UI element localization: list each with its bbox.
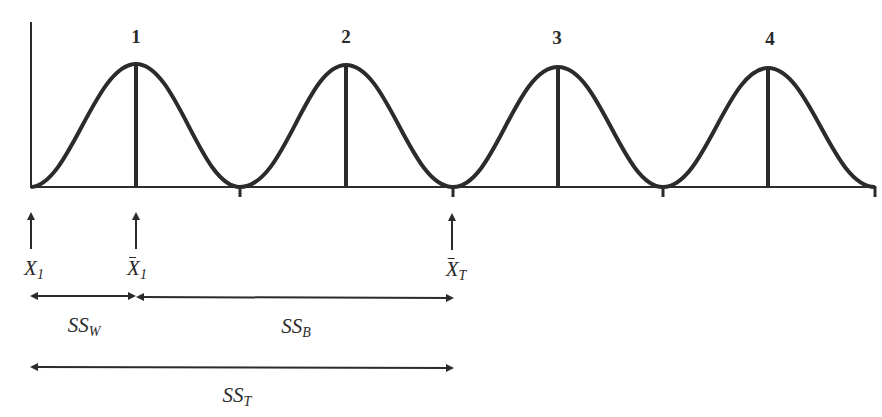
- sst-span-arrow: [32, 367, 452, 368]
- group-mean-label: X1: [127, 256, 147, 283]
- distribution-curves: [31, 64, 875, 187]
- group-label-2: 2: [341, 26, 351, 48]
- ssb-span-arrow: [138, 297, 452, 298]
- marker-arrows: [31, 214, 452, 250]
- group-label-4: 4: [765, 28, 775, 50]
- ss-total-label: SST: [223, 383, 252, 410]
- ss-between-label: SSB: [281, 314, 311, 341]
- group-label-3: 3: [552, 27, 562, 49]
- grand-mean-label: XT: [446, 257, 467, 284]
- ss-within-label: SSW: [68, 313, 101, 340]
- group-mean-lines: [136, 65, 768, 187]
- individual-score-label: X1: [24, 256, 44, 283]
- anova-diagram-graphics: [0, 0, 882, 417]
- group-label-1: 1: [131, 26, 141, 48]
